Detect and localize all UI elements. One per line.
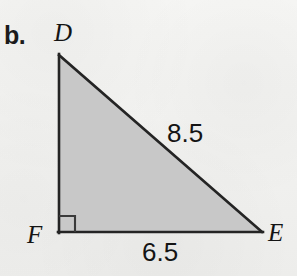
vertex-label-f: F <box>27 222 42 247</box>
vertex-label-d: D <box>54 20 72 45</box>
measurement-base: 6.5 <box>142 239 178 265</box>
geometry-figure: b. D F E 8.5 6.5 <box>0 0 297 276</box>
vertex-label-e: E <box>268 220 283 245</box>
measurement-hypotenuse: 8.5 <box>167 120 203 146</box>
part-label: b. <box>4 23 25 48</box>
triangle-diagram <box>0 0 297 276</box>
